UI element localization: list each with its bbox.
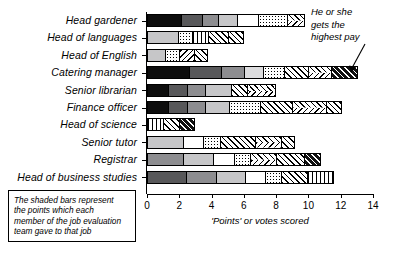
x-axis-tick	[147, 194, 148, 198]
bar-segment	[168, 84, 187, 97]
bar-row	[147, 66, 358, 79]
bar-segment	[281, 171, 307, 184]
bar-segment	[308, 66, 331, 79]
x-axis-tick-label: 14	[361, 200, 385, 211]
bar-segment	[281, 136, 296, 149]
bar-segment	[234, 153, 250, 166]
category-label: Senior tutor	[0, 134, 142, 151]
bar-segment	[163, 118, 179, 131]
bar-segment	[287, 14, 305, 27]
bar-segment	[183, 136, 204, 149]
x-axis-tick-label: 12	[329, 200, 353, 211]
bar-segment	[181, 14, 202, 27]
bar-segment	[255, 136, 281, 149]
bar-segment	[220, 136, 256, 149]
bar-segment	[165, 49, 180, 62]
bar-segment	[147, 14, 181, 27]
category-label: Head of business studies	[0, 169, 142, 186]
bar-segment	[292, 101, 326, 114]
bar-segment	[258, 14, 287, 27]
bar-segment	[245, 171, 264, 184]
bar-segment	[237, 14, 258, 27]
bar-segment	[276, 153, 303, 166]
bar-segment	[187, 101, 205, 114]
x-axis-tick-label: 0	[135, 200, 159, 211]
category-label: Senior librarian	[0, 82, 142, 99]
x-axis-tick	[373, 194, 374, 198]
annotation-arrow-icon	[345, 43, 371, 75]
bar-segment	[147, 118, 163, 131]
x-axis-tick-label: 2	[167, 200, 191, 211]
note-line-2: the points which each	[14, 205, 130, 215]
bar-row	[147, 118, 195, 131]
bar-segment	[284, 66, 308, 79]
bar-segment	[231, 84, 247, 97]
x-axis-tick	[276, 194, 277, 198]
bar-segment	[183, 153, 214, 166]
x-axis-tick-label: 10	[296, 200, 320, 211]
x-axis-tick-label: 8	[264, 200, 288, 211]
bar-segment	[168, 101, 187, 114]
bar-segment	[213, 153, 234, 166]
category-label: Head of science	[0, 116, 142, 133]
bar-segment	[147, 84, 168, 97]
annotation-line-3: highest pay	[311, 31, 399, 44]
x-axis-tick	[308, 194, 309, 198]
bar-segment	[216, 171, 245, 184]
bar-row	[147, 49, 208, 62]
bar-segment	[263, 66, 284, 79]
bar-segment	[147, 49, 165, 62]
bar-segment	[208, 31, 227, 44]
bar-row	[147, 84, 276, 97]
bar-segment	[147, 136, 183, 149]
bar-row	[147, 171, 334, 184]
bar-row	[147, 14, 305, 27]
x-axis-tick	[212, 194, 213, 198]
bar-segment	[218, 14, 237, 27]
note-line-3: member of the job evaluation	[14, 216, 130, 226]
category-label: Head of English	[0, 47, 142, 64]
bar-segment	[250, 153, 276, 166]
bar-segment	[229, 101, 260, 114]
x-axis-tick-label: 6	[232, 200, 256, 211]
bar-segment	[202, 14, 218, 27]
bar-segment	[147, 66, 189, 79]
bar-segment	[147, 101, 168, 114]
bar-segment	[194, 49, 209, 62]
annotation-line-1: He or she	[311, 6, 399, 19]
note-line-1: The shaded bars represent	[14, 195, 130, 205]
category-label: Registrar	[0, 151, 142, 168]
bar-segment	[221, 66, 244, 79]
category-axis-labels: Head gardenerHead of languagesHead of En…	[0, 12, 142, 186]
bar-segment	[192, 31, 208, 44]
bar-segment	[147, 31, 178, 44]
bar-segment	[179, 118, 195, 131]
bar-segment	[244, 66, 263, 79]
bar-segment	[260, 101, 292, 114]
bar-segment	[203, 136, 219, 149]
category-label: Finance officer	[0, 99, 142, 116]
category-label: Head gardener	[0, 12, 142, 29]
bar-segment	[187, 84, 205, 97]
bar-segment	[189, 66, 221, 79]
bar-row	[147, 136, 295, 149]
annotation-text: He or she gets the highest pay	[311, 6, 399, 44]
bar-segment	[147, 153, 183, 166]
bar-segment	[205, 101, 229, 114]
bar-segment	[247, 84, 276, 97]
x-axis-tick-label: 4	[200, 200, 224, 211]
bar-segment	[307, 171, 334, 184]
x-axis-title: 'Points' or votes scored	[147, 215, 373, 226]
x-axis-tick	[179, 194, 180, 198]
annotation-line-2: gets the	[311, 19, 399, 32]
bar-segment	[265, 171, 281, 184]
bar-segment	[178, 31, 193, 44]
note-line-4: team gave to that job	[14, 226, 130, 236]
bar-segment	[186, 171, 217, 184]
x-axis-tick	[244, 194, 245, 198]
x-axis-line	[147, 194, 373, 195]
bar-segment	[147, 171, 186, 184]
category-label: Catering manager	[0, 64, 142, 81]
bar-row	[147, 101, 342, 114]
bar-row	[147, 31, 244, 44]
